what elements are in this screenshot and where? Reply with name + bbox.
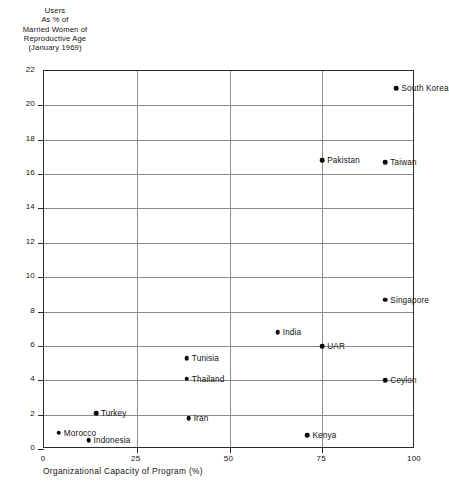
data-point-label: Turkey [101,408,127,417]
data-point [383,160,388,165]
y-axis-tick-label: 22 [5,65,35,74]
x-axis-title: Organizational Capacity of Program (%) [43,466,203,476]
gridline-horizontal [44,174,413,175]
y-axis-title: Users As % of Married Women of Reproduct… [0,6,110,52]
y-axis-tick [38,449,44,450]
y-axis-tick-label: 12 [5,237,35,246]
data-point-label: Thailand [192,374,225,383]
data-point [275,330,280,335]
data-point-label: Pakistan [327,156,360,165]
gridline-horizontal [44,140,413,141]
y-axis-tick-label: 0 [5,443,35,452]
y-axis-tick-label: 16 [5,168,35,177]
data-point-label: Morocco [64,428,96,437]
data-point-label: India [283,328,302,337]
gridline-horizontal [44,105,413,106]
y-axis-tick-label: 10 [5,271,35,280]
y-axis-tick [38,174,44,175]
gridline-horizontal [44,208,413,209]
y-axis-title-line-2: As % of [0,15,110,24]
y-axis-tick [38,140,44,141]
x-axis-tick [137,447,138,453]
y-axis-tick [38,346,44,347]
data-point-label: UAR [327,341,345,350]
data-point [57,430,62,435]
y-axis-tick [38,415,44,416]
y-axis-tick [38,277,44,278]
gridline-horizontal [44,312,413,313]
y-axis-tick-label: 2 [5,409,35,418]
data-point [394,86,399,91]
data-point [383,378,388,383]
plot-area: South KoreaPakistanTaiwanSingaporeIndiaU… [43,70,414,448]
data-point-label: Taiwan [390,158,416,167]
y-axis-tick-label: 4 [5,374,35,383]
data-point [305,433,310,438]
x-axis-tick-label: 25 [116,454,156,463]
y-axis-tick [38,312,44,313]
data-point-label: Ceylon [390,376,416,385]
data-point [185,376,190,381]
data-point [186,416,191,421]
data-point-label: South Korea [401,84,448,93]
y-axis-tick [38,380,44,381]
data-point-label: Kenya [312,431,336,440]
x-axis-tick-label: 50 [209,454,249,463]
gridline-vertical [137,71,138,447]
y-axis-tick-label: 20 [5,99,35,108]
data-point-label: Singapore [390,295,429,304]
y-axis-tick [38,208,44,209]
y-axis-title-line-1: Users [0,6,110,15]
gridline-vertical [230,71,231,447]
gridline-horizontal [44,415,413,416]
y-axis-tick-label: 6 [5,340,35,349]
x-axis-tick [230,447,231,453]
gridline-horizontal [44,277,413,278]
y-axis-title-line-5: (January 1969) [0,43,110,52]
gridline-vertical [322,71,323,447]
y-axis-title-line-3: Married Women of [0,25,110,34]
data-point [383,297,388,302]
scatter-chart: Users As % of Married Women of Reproduct… [0,0,449,489]
x-axis-tick-label: 75 [301,454,341,463]
data-point [94,411,99,416]
data-point-label: Iran [194,414,209,423]
data-point [320,344,325,349]
y-axis-tick-label: 8 [5,306,35,315]
x-axis-tick-label: 0 [23,454,63,463]
gridline-horizontal [44,380,413,381]
gridline-horizontal [44,243,413,244]
data-point-label: Tunisia [192,353,219,362]
gridline-horizontal [44,346,413,347]
data-point-label: Indonesia [94,436,131,445]
y-axis-tick [38,105,44,106]
data-point [86,438,91,443]
y-axis-tick-label: 18 [5,134,35,143]
x-axis-tick-label: 100 [394,454,434,463]
y-axis-title-line-4: Reproductive Age [0,34,110,43]
y-axis-tick [38,243,44,244]
y-axis-tick-label: 14 [5,202,35,211]
data-point [320,158,325,163]
x-axis-tick [322,447,323,453]
data-point [185,356,190,361]
